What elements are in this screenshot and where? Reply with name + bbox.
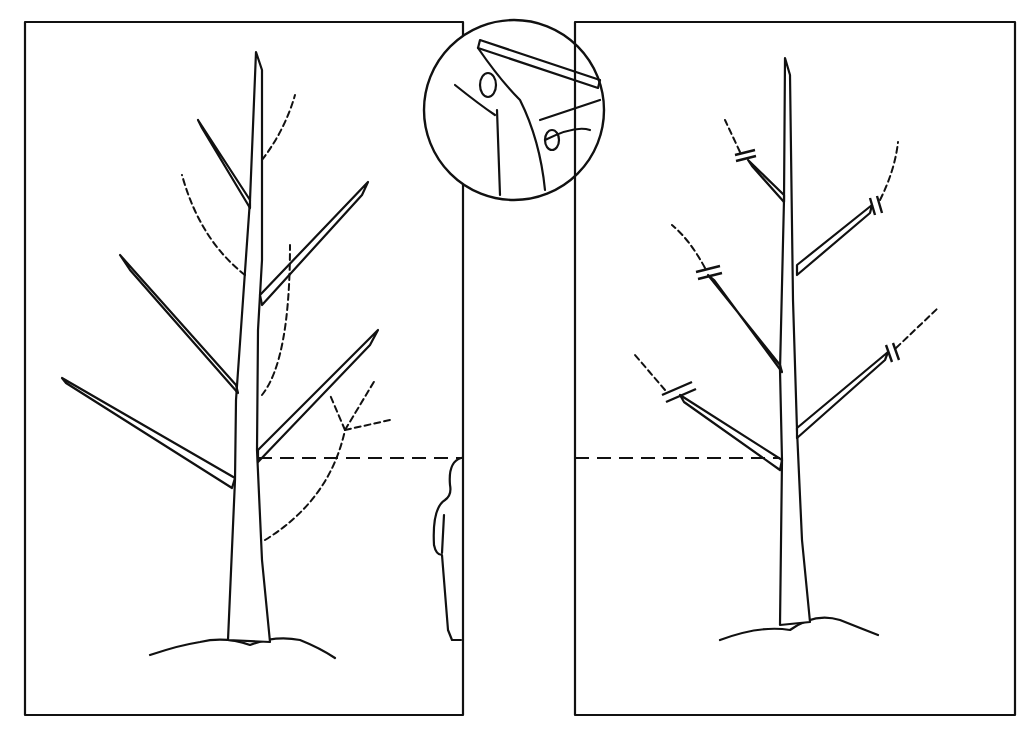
person-figure bbox=[434, 458, 461, 640]
pruning-shears-inset bbox=[424, 20, 604, 200]
panel-before bbox=[25, 22, 463, 715]
tree-pruning-diagram bbox=[0, 0, 1032, 734]
panel-after bbox=[575, 22, 1015, 715]
